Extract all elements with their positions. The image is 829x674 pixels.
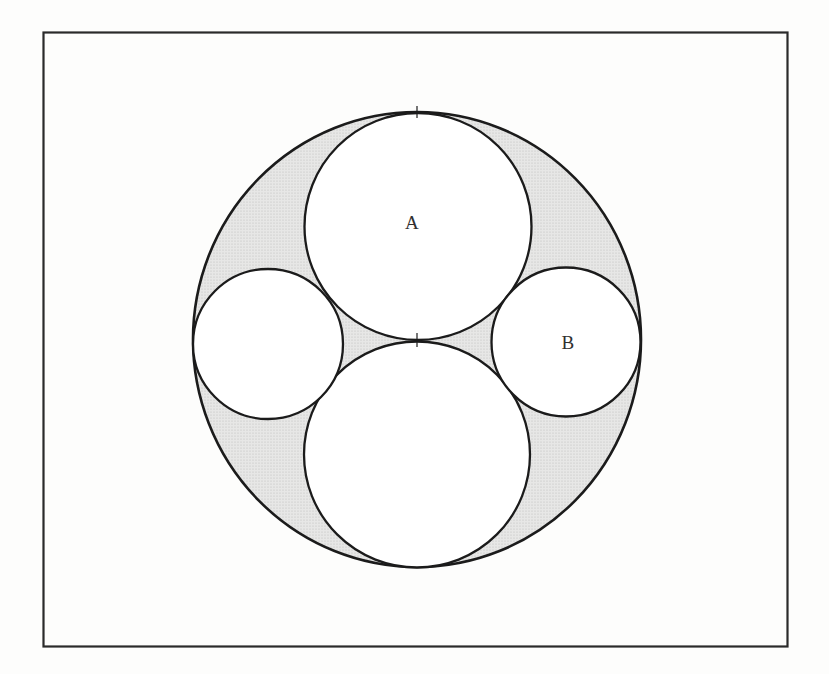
label-b: B bbox=[561, 332, 574, 353]
page-background: { "colors": { "page_background": "#fdfdf… bbox=[0, 0, 829, 674]
circle-left bbox=[193, 269, 343, 419]
geometry-diagram: A B bbox=[0, 0, 829, 674]
label-a: A bbox=[405, 212, 419, 233]
circle-bottom bbox=[304, 342, 530, 568]
